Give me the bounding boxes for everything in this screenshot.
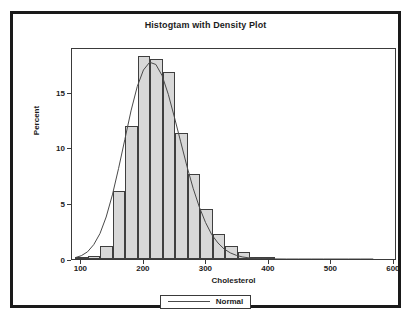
y-tick-label: 15: [39, 88, 65, 97]
x-tick-label: 300: [185, 264, 225, 273]
chart-title: Histogtam with Density Plot: [13, 20, 398, 30]
y-tick-mark: [67, 260, 71, 261]
legend-label: Normal: [216, 297, 244, 306]
plot-inner: [72, 49, 395, 259]
y-axis-label-text: Percent: [33, 105, 42, 134]
legend-box: Normal: [160, 295, 252, 309]
x-axis-label: Cholesterol: [71, 276, 396, 285]
density-curve: [72, 49, 395, 259]
y-axis-label: Percent: [31, 14, 43, 226]
legend-line-swatch: [168, 301, 210, 302]
x-tick-label: 500: [310, 264, 350, 273]
x-tick-label: 100: [60, 264, 100, 273]
x-tick-label: 400: [248, 264, 288, 273]
x-tick-label: 200: [123, 264, 163, 273]
y-tick-label: 10: [39, 144, 65, 153]
y-tick-label: 5: [39, 200, 65, 209]
chart-outer-frame: Histogtam with Density Plot Percent 0510…: [10, 11, 401, 308]
plot-area: [71, 48, 396, 260]
normal-density-polyline: [75, 62, 373, 259]
chart-legend: Normal: [13, 295, 398, 309]
x-tick-label: 600: [373, 264, 413, 273]
